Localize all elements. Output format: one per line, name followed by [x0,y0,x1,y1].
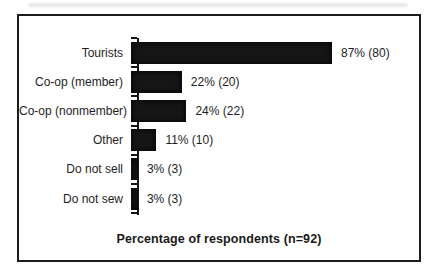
y-axis-tick [131,37,137,39]
category-label: Co-op (member) [19,75,131,89]
y-axis-tick [131,212,137,214]
category-label: Do not sell [19,162,131,176]
bar [131,71,182,93]
value-label: 3% (3) [147,162,182,176]
bar-row: Do not sew3% (3) [19,188,419,210]
figure: Tourists87% (80)Co-op (member)22% (20)Co… [0,0,434,274]
x-axis-title: Percentage of respondents (n=92) [19,232,419,246]
bar-row: Do not sell3% (3) [19,158,419,180]
category-label: Do not sew [19,192,131,206]
value-label: 22% (20) [191,75,240,89]
bar [131,188,138,210]
value-label: 3% (3) [147,192,182,206]
bar [131,158,138,180]
value-label: 11% (10) [165,133,213,147]
bar-row: Tourists87% (80) [19,42,419,64]
bar-row: Other11% (10) [19,129,419,151]
category-label: Tourists [19,46,131,60]
bar-row: Co-op (nonmember)24% (22) [19,100,419,122]
category-label: Co-op (nonmember) [19,104,131,118]
y-axis-tick [131,95,137,97]
y-axis-tick [131,183,137,185]
chart-frame: Tourists87% (80)Co-op (member)22% (20)Co… [17,14,421,262]
value-label: 24% (22) [195,104,244,118]
bar [131,129,156,151]
y-axis-tick [131,154,137,156]
bar [131,42,332,64]
category-label: Other [19,133,131,147]
y-axis-tick [131,66,137,68]
scan-artifact [28,3,408,7]
bar [131,100,186,122]
bar-row: Co-op (member)22% (20) [19,71,419,93]
value-label: 87% (80) [341,46,390,60]
y-axis-tick [131,125,137,127]
